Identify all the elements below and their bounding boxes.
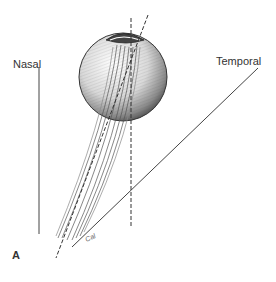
panel-label: A <box>12 249 20 261</box>
nasal-label: Nasal <box>13 58 41 70</box>
eye-diagram <box>0 0 276 282</box>
temporal-label: Temporal <box>216 55 261 67</box>
